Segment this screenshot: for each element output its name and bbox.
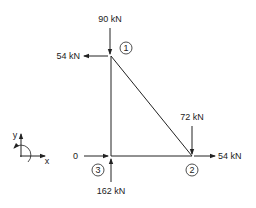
load-label: 162 kN: [97, 186, 126, 196]
truss-diagram: 90 kN 54 kN 72 kN 54 kN 0 162 kN 1 2 3: [0, 0, 256, 208]
load-node2-horizontal: 54 kN: [194, 151, 242, 161]
load-node1-horizontal: 54 kN: [56, 51, 108, 61]
node-label-2: 2: [186, 164, 198, 176]
load-label: 54 kN: [56, 51, 80, 61]
node-number: 3: [95, 165, 100, 175]
load-node3-horizontal: 0: [73, 151, 108, 161]
member-1-2: [111, 56, 192, 156]
node-label-3: 3: [92, 164, 104, 176]
truss-members: [111, 56, 192, 156]
node-label-1: 1: [120, 42, 132, 54]
node-number: 1: [123, 43, 128, 53]
y-axis-label: y: [13, 130, 18, 140]
load-label: 54 kN: [218, 151, 242, 161]
load-label: 90 kN: [98, 14, 122, 24]
load-node1-vertical: 90 kN: [98, 14, 122, 54]
rotation-arrow-icon: [14, 145, 31, 162]
load-node2-vertical: 72 kN: [180, 112, 204, 154]
node-number: 2: [189, 165, 194, 175]
load-label: 0: [73, 151, 78, 161]
load-label: 72 kN: [180, 112, 204, 122]
x-axis-label: x: [45, 156, 50, 166]
coordinate-axes: y x: [13, 130, 50, 166]
